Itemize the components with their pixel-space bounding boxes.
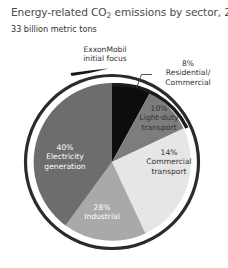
slice-name-residential-commercial-line2: Commercial: [150, 78, 226, 87]
slice-label-light-duty-transport: 10% Light-duty transport: [124, 104, 194, 132]
annotation-exxon-line2: initial focus: [62, 54, 148, 63]
slice-percent-electricity-generation: 40%: [26, 143, 104, 152]
pie-chart-svg: [0, 0, 228, 268]
slice-label-residential-commercial: 8% Residential/ Commercial: [150, 59, 226, 87]
annotation-exxon-initial-focus: ExxonMobil initial focus: [62, 45, 148, 64]
slice-name-light-duty-transport-line1: Light-duty: [124, 113, 194, 122]
slice-name-electricity-generation-line1: Electricity: [26, 152, 104, 161]
slice-percent-commercial-transport: 14%: [131, 148, 207, 157]
slice-name-light-duty-transport-line2: transport: [124, 123, 194, 132]
slice-name-industrial-line1: Industrial: [64, 212, 140, 221]
annotation-exxon-line1: ExxonMobil: [62, 45, 148, 54]
slice-label-electricity-generation: 40% Electricity generation: [26, 143, 104, 171]
slice-name-electricity-generation-line2: generation: [26, 162, 104, 171]
slice-percent-residential-commercial: 8%: [150, 59, 226, 68]
slice-percent-industrial: 28%: [64, 203, 140, 212]
slice-label-commercial-transport: 14% Commercial transport: [131, 148, 207, 176]
slice-label-industrial: 28% Industrial: [64, 203, 140, 222]
slice-name-commercial-transport-line1: Commercial: [131, 157, 207, 166]
slice-name-residential-commercial-line1: Residential/: [150, 68, 226, 77]
slice-percent-light-duty-transport: 10%: [124, 104, 194, 113]
chart-figure: Energy-related CO2 emissions by sector, …: [0, 0, 228, 268]
slice-name-commercial-transport-line2: transport: [131, 167, 207, 176]
